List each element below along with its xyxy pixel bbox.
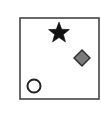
- diagram-canvas: [0, 0, 101, 127]
- diagram-svg: [0, 0, 101, 127]
- circle-icon: [28, 80, 41, 93]
